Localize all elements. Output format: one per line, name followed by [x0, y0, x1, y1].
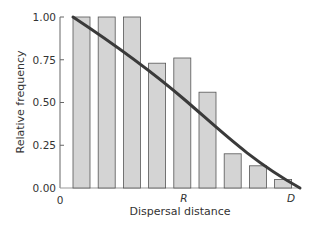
ytick-1.00: 1.00 [33, 11, 56, 23]
chart: 1.00 0.75 0.50 0.25 0.00 0 R D Dispersal… [0, 0, 315, 225]
bar-1 [73, 17, 90, 188]
y-axis-title: Relative frequency [14, 50, 27, 154]
ytick-0.00: 0.00 [33, 182, 56, 194]
bar-3 [123, 17, 140, 188]
ytick-0.75: 0.75 [33, 54, 56, 66]
ytick-0.50: 0.50 [33, 96, 56, 108]
ytick-0.25: 0.25 [33, 139, 56, 151]
bar-5 [174, 58, 191, 188]
bar-6 [199, 92, 216, 188]
xtick-R: R [180, 192, 187, 204]
x-axis-title: Dispersal distance [129, 205, 230, 218]
bar-7 [224, 154, 241, 188]
bar-8 [249, 166, 266, 188]
xtick-origin: 0 [57, 194, 64, 206]
y-ticks: 1.00 0.75 0.50 0.25 0.00 [33, 11, 64, 194]
xtick-D: D [287, 192, 295, 204]
